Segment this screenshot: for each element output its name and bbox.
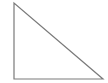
diagram-canvas <box>0 0 108 83</box>
right-triangle <box>14 3 103 79</box>
